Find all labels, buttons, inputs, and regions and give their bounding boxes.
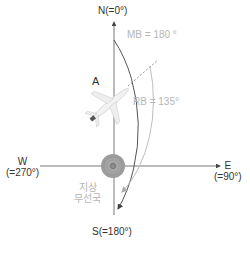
north-label: N(=0°)	[98, 5, 127, 16]
relative-bearing-arc	[122, 66, 153, 192]
magnetic-bearing-arc	[114, 40, 138, 209]
aircraft-heading-line	[128, 60, 158, 86]
ground-station-icon	[101, 154, 125, 178]
station-line2: 무선국	[74, 193, 101, 204]
west-label: W (=270°)	[6, 156, 39, 178]
bearing-diagram: N(=0°) MB = 180 ° A RB = 135° W (=270°) …	[0, 0, 250, 253]
relative-bearing-label: RB = 135°	[133, 96, 179, 107]
diagram-canvas	[0, 0, 250, 253]
ground-station-label: 지상 무선국	[74, 182, 101, 204]
magnetic-bearing-label: MB = 180 °	[127, 29, 177, 40]
east-letter: E	[214, 160, 242, 171]
station-line1: 지상	[74, 182, 101, 193]
south-label: S(=180°)	[92, 226, 132, 237]
aircraft-label: A	[92, 76, 99, 87]
west-degrees: (=270°)	[6, 167, 39, 178]
east-degrees: (=90°)	[214, 171, 242, 182]
west-letter: W	[6, 156, 39, 167]
east-label: E (=90°)	[214, 160, 242, 182]
